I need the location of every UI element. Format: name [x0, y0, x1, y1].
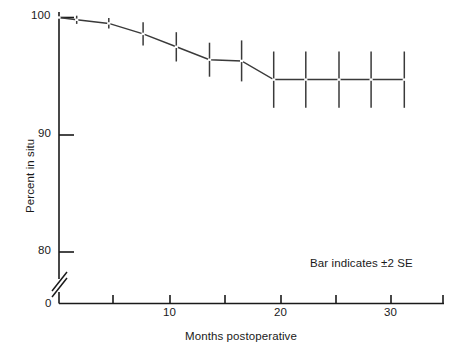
x-tick-label-30: 30	[384, 306, 397, 318]
x-tick-label-10: 10	[163, 306, 176, 318]
x-axis-title: Months postoperative	[185, 330, 297, 342]
y-tick-label-90: 90	[38, 127, 51, 139]
data-point-marker	[370, 78, 373, 80]
survival-curve-line	[59, 18, 404, 80]
data-point-marker	[337, 78, 340, 80]
data-point-marker	[107, 22, 110, 24]
data-point-marker	[142, 33, 145, 35]
data-point-marker	[304, 78, 307, 80]
data-point-marker	[57, 16, 60, 18]
y-tick-label-100: 100	[31, 9, 51, 21]
x-tick-marks	[113, 295, 443, 304]
y-axis-title: Percent in situ	[24, 139, 36, 213]
error-bar-annotation: Bar indicates ±2 SE	[310, 257, 413, 269]
y-tick-label-0: 0	[45, 297, 52, 309]
chart-svg	[0, 0, 462, 354]
data-point-marker	[208, 59, 211, 61]
y-tick-label-80: 80	[38, 244, 51, 256]
data-point-marker	[272, 78, 275, 80]
data-series-group	[57, 16, 406, 108]
x-tick-label-20: 20	[274, 306, 287, 318]
data-point-marker	[240, 60, 243, 62]
data-point-marker	[403, 78, 406, 80]
data-point-marker	[175, 46, 178, 48]
data-point-markers	[57, 16, 406, 81]
figure-container: 100 90 80 0 10 20 30 Percent in situ Mon…	[0, 0, 462, 354]
y-tick-marks	[59, 18, 74, 253]
data-point-marker	[75, 19, 78, 21]
